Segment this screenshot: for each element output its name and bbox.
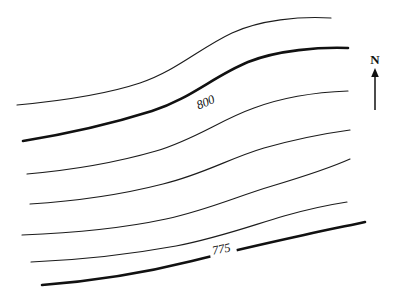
north-arrow-label: N <box>370 52 380 67</box>
contour-map-figure: 800 775 N <box>0 0 394 299</box>
map-background <box>0 0 394 299</box>
contour-map-canvas: 800 775 N <box>0 0 394 299</box>
